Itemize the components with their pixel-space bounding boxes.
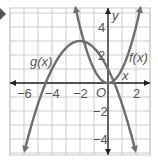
x-tick-label: −4 — [45, 86, 60, 101]
y-axis-label: y — [111, 8, 120, 23]
y-tick-label: −4 — [93, 132, 108, 147]
g-label: g(x) — [30, 54, 52, 69]
x-tick-label: −6 — [17, 86, 32, 101]
graph: −6−4−2242−2−4 x y O g(x) f(x) — [0, 0, 158, 164]
origin-label: O — [96, 85, 106, 100]
y-tick-label: 2 — [98, 48, 105, 63]
item-marker-icon — [0, 8, 6, 20]
x-tick-label: −2 — [73, 86, 88, 101]
x-tick-label: 2 — [133, 86, 140, 101]
y-tick-label: 4 — [98, 20, 105, 35]
x-axis-label: x — [121, 68, 129, 83]
y-tick-label: −2 — [93, 104, 108, 119]
f-label: f(x) — [129, 50, 148, 65]
